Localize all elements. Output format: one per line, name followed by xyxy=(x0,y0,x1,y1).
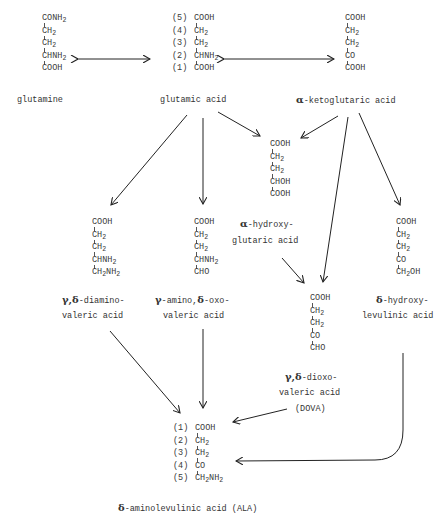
hydroxyglutaric-acid-label-line2: glutaric acid xyxy=(232,236,298,246)
hydroxylevulinic-acid-structure: COOH CH2 CH2 CO CH2OH xyxy=(396,218,420,278)
diaminovaleric-acid-label-line1: γ,δ-diamino- xyxy=(62,294,125,306)
arrow-glutamic-diamino xyxy=(111,115,187,205)
aminooxovaleric-acid-label-line2: valeric acid xyxy=(163,311,224,321)
diaminovaleric-acid-structure: COOH CH2 CH2 CHNH2 CH2NH2 xyxy=(92,218,120,278)
carbon-number: (2) xyxy=(172,52,187,62)
carbon-number: (1) xyxy=(172,64,187,74)
dova-structure: COOH CH2 CH2 CO CHO xyxy=(310,294,330,354)
hydroxyglutaric-acid-structure: COOH CH2 CH2 CHOH COOH xyxy=(270,140,290,200)
carbon-number: (3) xyxy=(172,39,187,49)
formula-row: CONH2 xyxy=(42,14,66,24)
pathway-arrows xyxy=(0,0,448,526)
carbon-number: (1) xyxy=(173,424,188,434)
diaminovaleric-acid-label-line2: valeric acid xyxy=(62,311,123,321)
arrow-ketoglutaric-dova xyxy=(323,117,348,282)
ketoglutaric-acid-structure: COOH CH2 CH2 CO COOH xyxy=(345,14,365,74)
aminooxovaleric-acid-structure: COOH CH2 CH2 CHNH2 CHO xyxy=(194,218,218,278)
dova-label-line3: (DOVA) xyxy=(295,404,326,414)
carbon-number: (5) xyxy=(172,14,187,24)
dova-label-line2: valeric acid xyxy=(279,388,340,398)
arrow-glutamic-hydroxyglutaric xyxy=(218,112,260,136)
formula-row: COOH xyxy=(42,64,66,74)
carbon-number: (3) xyxy=(173,449,188,459)
arrow-ketoglutaric-hydroxylevulinic xyxy=(359,113,400,205)
arrow-hydroxyglutaric-dova xyxy=(282,258,304,283)
arrow-diamino-ala xyxy=(110,331,180,413)
arrow-dova-ala xyxy=(233,409,287,422)
alpha-symbol: α xyxy=(296,94,304,105)
carbon-number: (5) xyxy=(173,474,188,484)
formula-row: CH2 xyxy=(42,39,66,49)
formula-row: CHNH2 xyxy=(42,52,66,62)
aminooxovaleric-acid-label-line1: γ-amino,δ-oxo- xyxy=(155,294,230,306)
carbon-number: (2) xyxy=(173,437,188,447)
arrow-ketoglutaric-hydroxyglutaric xyxy=(301,116,338,138)
carbon-number: (4) xyxy=(172,27,187,37)
ala-structure: (1)COOH (2)CH2 (3)CH2 (4)CO (5)CH2NH2 xyxy=(195,424,223,484)
ala-label: δ-aminolevulinic acid (ALA) xyxy=(118,502,257,514)
hydroxylevulinic-acid-label-line2: levulinic acid xyxy=(362,311,433,321)
dova-label-line1: γ,δ-dioxo- xyxy=(285,371,337,383)
hydroxyglutaric-acid-label-line1: α-hydroxy- xyxy=(240,218,294,230)
ketoglutaric-acid-label: α-ketoglutaric acid xyxy=(296,94,396,106)
glutamine-structure: CONH2 CH2 CH2 CHNH2 COOH xyxy=(42,14,66,74)
glutamine-label: glutamine xyxy=(17,95,63,105)
glutamic-acid-structure: (5)COOH (4)CH2 (3)CH2 (2)CHNH2 (1)COOH xyxy=(194,14,218,74)
formula-row: CH2 xyxy=(42,27,66,37)
glutamic-acid-label: glutamic acid xyxy=(160,95,226,105)
hydroxylevulinic-acid-label-line1: δ-hydroxy- xyxy=(376,294,429,306)
carbon-number: (4) xyxy=(173,462,188,472)
